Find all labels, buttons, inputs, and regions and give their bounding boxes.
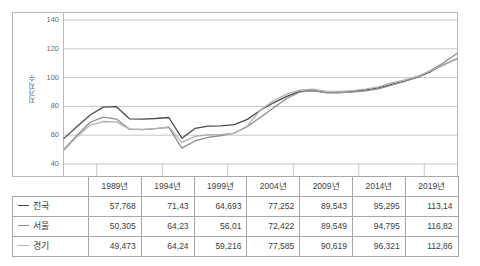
table-cell: 71,43	[141, 197, 194, 217]
table-cell: 57,768	[89, 197, 142, 217]
y-axis-tick-140: 140	[33, 16, 59, 24]
series-line-0	[64, 59, 457, 139]
table-row-label: 경기	[13, 237, 89, 257]
table-row: 전국57,76871,4364,69377,25289,54395,295113…	[13, 197, 459, 217]
table-cell: 64,24	[141, 237, 194, 257]
table-header-5: 2014년	[352, 177, 405, 197]
table-header-3: 2004년	[247, 177, 300, 197]
table-cell: 56,01	[194, 217, 247, 237]
chart-container: 지가지수 406080100120140	[12, 12, 458, 177]
y-axis-tick-100: 100	[33, 74, 59, 82]
table-row: 서울50,30564,2356,0172,42289,54994,795116,…	[13, 217, 459, 237]
table-corner-cell	[13, 177, 89, 197]
legend-label: 전국	[33, 201, 49, 211]
table-cell: 89,549	[300, 217, 353, 237]
table-cell: 77,585	[247, 237, 300, 257]
plot-area	[63, 13, 458, 177]
table-row-label: 서울	[13, 217, 89, 237]
line-marker-national-icon	[18, 205, 29, 206]
y-axis-tick-60: 60	[33, 131, 59, 139]
table-cell: 59,216	[194, 237, 247, 257]
table-header-2: 1999년	[194, 177, 247, 197]
series-line-2	[64, 59, 457, 150]
y-axis-tick-120: 120	[33, 45, 59, 53]
y-axis-tick-40: 40	[33, 160, 59, 168]
table-body: 전국57,76871,4364,69377,25289,54395,295113…	[13, 197, 459, 257]
line-marker-gyeonggi-icon	[18, 245, 29, 246]
table-row-label: 전국	[13, 197, 89, 217]
data-table-container: 1989년1994년1999년2004년2009년2014년2019년 전국57…	[12, 176, 458, 257]
table-row: 경기49,47364,2459,21677,58590,61996,321112…	[13, 237, 459, 257]
data-table: 1989년1994년1999년2004년2009년2014년2019년 전국57…	[12, 176, 459, 257]
table-header-6: 2019년	[405, 177, 458, 197]
table-header-4: 2009년	[300, 177, 353, 197]
legend-label: 서울	[33, 221, 49, 231]
table-cell: 72,422	[247, 217, 300, 237]
table-cell: 49,473	[89, 237, 142, 257]
table-cell: 94,795	[352, 217, 405, 237]
table-cell: 113,14	[405, 197, 458, 217]
table-cell: 90,619	[300, 237, 353, 257]
table-cell: 96,321	[352, 237, 405, 257]
y-axis-tick-80: 80	[33, 102, 59, 110]
table-cell: 89,543	[300, 197, 353, 217]
table-cell: 95,295	[352, 197, 405, 217]
table-header-0: 1989년	[89, 177, 142, 197]
legend-label: 경기	[33, 241, 49, 251]
table-cell: 64,23	[141, 217, 194, 237]
table-header-row: 1989년1994년1999년2004년2009년2014년2019년	[13, 177, 459, 197]
table-cell: 64,693	[194, 197, 247, 217]
line-marker-seoul-icon	[18, 225, 29, 226]
chart-page: 지가지수 406080100120140 1989년1994년1999년2004…	[0, 0, 480, 266]
table-cell: 112,86	[405, 237, 458, 257]
table-cell: 50,305	[89, 217, 142, 237]
table-cell: 77,252	[247, 197, 300, 217]
table-cell: 116,82	[405, 217, 458, 237]
line-chart-svg	[63, 13, 458, 177]
table-header-1: 1994년	[141, 177, 194, 197]
